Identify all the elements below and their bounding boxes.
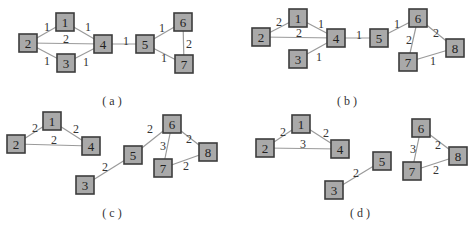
node-label: 8 [452, 41, 459, 56]
node-1: 1 [289, 9, 307, 27]
node-3: 3 [57, 54, 75, 72]
node-5: 5 [370, 29, 388, 47]
node-label: 6 [418, 121, 425, 136]
node-label: 6 [415, 11, 422, 26]
node-label: 8 [455, 149, 462, 164]
edge-weight-label: 2 [280, 125, 286, 139]
node-label: 4 [100, 37, 107, 52]
node-4: 4 [327, 29, 345, 47]
node-label: 3 [63, 56, 70, 71]
node-label: 2 [258, 30, 265, 45]
node-label: 2 [13, 137, 20, 152]
edge-weight-label: 1 [356, 28, 362, 42]
edge-weight-label: 2 [353, 166, 359, 180]
node-7: 7 [399, 53, 417, 71]
node-7: 7 [403, 162, 421, 180]
node-5: 5 [124, 146, 142, 164]
edge-weight-label: 3 [160, 139, 166, 153]
node-label: 7 [405, 55, 412, 70]
edge-weight-label: 3 [410, 142, 416, 156]
node-label: 3 [82, 178, 89, 193]
node-4: 4 [331, 140, 349, 158]
node-label: 2 [262, 141, 269, 156]
node-label: 2 [25, 36, 32, 51]
node-label: 5 [130, 148, 137, 163]
edge-weight-label: 2 [296, 26, 302, 40]
node-label: 5 [376, 31, 383, 46]
edge-weight-label: 2 [433, 26, 439, 40]
node-5: 5 [136, 35, 154, 53]
node-1: 1 [43, 112, 61, 130]
panel-c: 1243567822222322( c ) [7, 112, 217, 220]
node-label: 8 [205, 145, 212, 160]
node-label: 1 [49, 114, 56, 129]
node-8: 8 [449, 147, 467, 165]
panel-b: 12345678212111221( b ) [252, 9, 464, 108]
node-3: 3 [289, 50, 307, 68]
edge-weight-label: 2 [186, 37, 192, 51]
node-label: 6 [169, 117, 176, 132]
edge-weight-label: 2 [63, 32, 69, 46]
panel-caption: ( c ) [102, 206, 121, 220]
edge-weight-label: 2 [183, 159, 189, 173]
edge-weight-label: 2 [435, 138, 441, 152]
edge-weight-label: 1 [394, 17, 400, 31]
edge-weight-label: 2 [32, 121, 38, 135]
node-label: 3 [331, 183, 338, 198]
edge-weight-label: 2 [102, 160, 108, 174]
panel-caption: ( a ) [102, 94, 121, 108]
panel-d: 124356782232322( d ) [256, 115, 467, 220]
edge-weight-label: 1 [318, 17, 324, 31]
node-6: 6 [174, 13, 192, 31]
node-7: 7 [175, 55, 193, 73]
graph-figure: 1234567112111112( a )12345678212111221( … [0, 0, 472, 227]
edge-weight-label: 2 [406, 33, 412, 47]
node-2: 2 [252, 28, 270, 46]
node-label: 4 [88, 139, 95, 154]
edge-weight-label: 2 [433, 163, 439, 177]
edge-weight-label: 2 [51, 133, 57, 147]
node-label: 5 [379, 154, 386, 169]
node-2: 2 [19, 34, 37, 52]
edge-weight-label: 1 [430, 54, 436, 68]
node-1: 1 [292, 115, 310, 133]
node-label: 1 [62, 15, 69, 30]
edge-weight-label: 1 [159, 21, 165, 35]
node-8: 8 [199, 143, 217, 161]
edge-weight-label: 1 [161, 51, 167, 65]
node-6: 6 [163, 115, 181, 133]
node-3: 3 [76, 176, 94, 194]
node-2: 2 [7, 135, 25, 153]
node-label: 1 [295, 11, 302, 26]
node-4: 4 [82, 137, 100, 155]
node-4: 4 [94, 35, 112, 53]
node-2: 2 [256, 139, 274, 157]
edge-weight-label: 1 [44, 20, 50, 34]
edge-weight-label: 2 [186, 132, 192, 146]
edge-weight-label: 2 [323, 126, 329, 140]
node-1: 1 [56, 13, 74, 31]
edge-weight-label: 1 [44, 54, 50, 68]
node-label: 7 [409, 164, 416, 179]
panel-caption: ( b ) [337, 94, 357, 108]
node-label: 4 [333, 31, 340, 46]
node-3: 3 [325, 181, 343, 199]
node-label: 7 [181, 57, 188, 72]
edge-weight-label: 3 [300, 137, 306, 151]
node-7: 7 [154, 159, 172, 177]
node-6: 6 [409, 9, 427, 27]
edge-weight-label: 2 [73, 122, 79, 136]
edge-weight-label: 2 [276, 15, 282, 29]
edge-weight-label: 1 [123, 34, 129, 48]
node-label: 4 [337, 142, 344, 157]
node-6: 6 [412, 119, 430, 137]
edge-weight-label: 1 [316, 50, 322, 64]
edge-weight-label: 1 [83, 55, 89, 69]
panel-caption: ( d ) [350, 206, 370, 220]
edge-weight-label: 1 [85, 20, 91, 34]
node-label: 7 [160, 161, 167, 176]
node-label: 6 [180, 15, 187, 30]
node-label: 5 [142, 37, 149, 52]
panel-a: 1234567112111112( a ) [19, 13, 193, 108]
node-label: 3 [295, 52, 302, 67]
